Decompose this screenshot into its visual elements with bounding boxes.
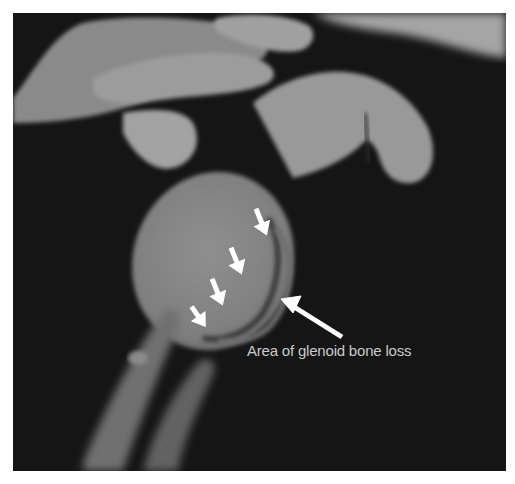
annotation-arrow <box>281 296 342 337</box>
annotation-label: Area of glenoid bone loss <box>247 342 411 359</box>
ct-image <box>13 13 506 471</box>
coracoid <box>253 72 433 183</box>
acromion <box>313 13 506 58</box>
scapular-neck <box>123 110 197 169</box>
shoulder-anatomy-illustration <box>13 13 506 471</box>
